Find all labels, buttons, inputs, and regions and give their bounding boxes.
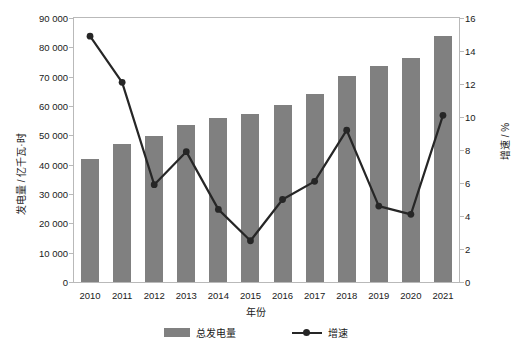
y-axis-left-tick-label: 50 000 bbox=[2, 130, 68, 141]
line-point-2013[interactable]: 2013: 7.9% bbox=[183, 148, 190, 155]
line-point-2019[interactable]: 2019: 4.6% bbox=[375, 203, 382, 210]
legend-item-line[interactable]: 增速 bbox=[292, 325, 348, 340]
y-axis-left-tick-mark bbox=[69, 47, 73, 48]
y-axis-right-tick-label: 0 bbox=[465, 277, 491, 288]
y-axis-left-tick-mark bbox=[69, 194, 73, 195]
y-axis-right-ticks: 0246810121416 bbox=[465, 0, 505, 355]
y-axis-left-ticks: 010 00020 00030 00040 00050 00060 00070 … bbox=[0, 0, 68, 355]
legend-label-bar: 总发电量 bbox=[196, 325, 236, 340]
x-axis-tick-label-2012: 2012 bbox=[144, 290, 165, 301]
x-axis-title: 年份 bbox=[0, 304, 511, 319]
y-axis-right-tick-mark bbox=[460, 51, 464, 52]
legend-item-bar[interactable]: 总发电量 bbox=[164, 325, 236, 340]
y-axis-right-tick-mark bbox=[460, 150, 464, 151]
y-axis-left-tick-mark bbox=[69, 223, 73, 224]
y-axis-right-tick-label: 4 bbox=[465, 211, 491, 222]
x-axis-tick-label-2011: 2011 bbox=[112, 290, 132, 301]
y-axis-right-tick-mark bbox=[460, 216, 464, 217]
y-axis-left-tick-label: 90 000 bbox=[2, 13, 68, 24]
x-axis-tick-label-2015: 2015 bbox=[240, 290, 261, 301]
line-series-layer: 2010: 14.9%2011: 12.1%2012: 5.9%2013: 7.… bbox=[74, 18, 459, 282]
line-point-2010[interactable]: 2010: 14.9% bbox=[87, 33, 94, 40]
plot-area: 2010: 14.9%2011: 12.1%2012: 5.9%2013: 7.… bbox=[73, 17, 460, 283]
x-axis-tick-label-2021: 2021 bbox=[432, 290, 453, 301]
y-axis-right-tick-label: 12 bbox=[465, 79, 491, 90]
y-axis-left-tick-mark bbox=[69, 253, 73, 254]
legend-line-marker bbox=[303, 329, 310, 336]
chart-container: 发电量 / 亿千瓦·时 增速 / % 010 00020 00030 00040… bbox=[0, 0, 511, 355]
y-axis-right-tick-mark bbox=[460, 183, 464, 184]
x-axis-tick-label-2013: 2013 bbox=[176, 290, 197, 301]
legend-bar-swatch-icon bbox=[164, 328, 190, 337]
y-axis-left-tick-mark bbox=[69, 77, 73, 78]
legend-line-swatch-icon bbox=[292, 328, 322, 337]
y-axis-left-tick-mark bbox=[69, 135, 73, 136]
line-point-2011[interactable]: 2011: 12.1% bbox=[119, 79, 126, 86]
y-axis-right-tick-label: 14 bbox=[465, 46, 491, 57]
line-point-2016[interactable]: 2016: 5% bbox=[279, 196, 286, 203]
y-axis-left-tick-mark bbox=[69, 165, 73, 166]
line-point-2015[interactable]: 2015: 2.5% bbox=[247, 237, 254, 244]
y-axis-right-tick-label: 16 bbox=[465, 13, 491, 24]
y-axis-right-tick-label: 8 bbox=[465, 145, 491, 156]
line-point-2014[interactable]: 2014: 4.4% bbox=[215, 206, 222, 213]
y-axis-left-tick-mark bbox=[69, 106, 73, 107]
y-axis-left-tick-label: 80 000 bbox=[2, 42, 68, 53]
y-axis-left-tick-label: 0 bbox=[2, 277, 68, 288]
y-axis-left-tick-label: 40 000 bbox=[2, 159, 68, 170]
x-axis-tick-label-2017: 2017 bbox=[304, 290, 325, 301]
x-axis-tick-label-2014: 2014 bbox=[208, 290, 229, 301]
y-axis-left-tick-mark bbox=[69, 282, 73, 283]
y-axis-right-tick-mark bbox=[460, 84, 464, 85]
x-axis-tick-label-2020: 2020 bbox=[400, 290, 421, 301]
line-point-2020[interactable]: 2020: 4.1% bbox=[407, 211, 414, 218]
line-point-2012[interactable]: 2012: 5.9% bbox=[151, 181, 158, 188]
line-point-2018[interactable]: 2018: 9.2% bbox=[343, 127, 350, 134]
x-axis-tick-label-2016: 2016 bbox=[272, 290, 293, 301]
y-axis-right-tick-label: 10 bbox=[465, 112, 491, 123]
legend-label-line: 增速 bbox=[328, 325, 348, 340]
y-axis-left-tick-mark bbox=[69, 18, 73, 19]
growth-rate-line bbox=[90, 36, 443, 241]
y-axis-right-tick-label: 2 bbox=[465, 244, 491, 255]
y-axis-right-tick-mark bbox=[460, 249, 464, 250]
x-axis-tick-label-2019: 2019 bbox=[368, 290, 389, 301]
x-axis-tick-label-2010: 2010 bbox=[79, 290, 100, 301]
y-axis-left-tick-label: 60 000 bbox=[2, 101, 68, 112]
x-axis-tick-label-2018: 2018 bbox=[336, 290, 357, 301]
y-axis-left-tick-label: 70 000 bbox=[2, 71, 68, 82]
chart-legend: 总发电量 增速 bbox=[0, 325, 511, 340]
x-axis-ticks: 2010201120122013201420152016201720182019… bbox=[73, 287, 460, 303]
y-axis-right-tick-mark bbox=[460, 18, 464, 19]
y-axis-left-tick-label: 20 000 bbox=[2, 218, 68, 229]
line-point-2017[interactable]: 2017: 6.1% bbox=[311, 178, 318, 185]
y-axis-right-tick-mark bbox=[460, 117, 464, 118]
line-point-2021[interactable]: 2021: 10.1% bbox=[440, 112, 447, 119]
y-axis-right-tick-label: 6 bbox=[465, 178, 491, 189]
y-axis-left-tick-label: 10 000 bbox=[2, 247, 68, 258]
y-axis-left-tick-label: 30 000 bbox=[2, 189, 68, 200]
y-axis-right-tick-mark bbox=[460, 282, 464, 283]
